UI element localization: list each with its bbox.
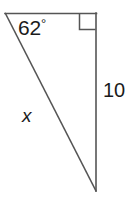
vertical-side-label: 10: [103, 80, 125, 100]
geometry-figure: 62° x 10: [0, 0, 138, 202]
right-angle-marker-icon: [80, 14, 96, 30]
angle-value: 62: [18, 16, 41, 39]
degree-symbol-icon: °: [41, 16, 46, 31]
hypotenuse-label: x: [22, 106, 32, 125]
angle-label: 62°: [18, 17, 46, 38]
triangle-hypotenuse: [6, 14, 97, 192]
